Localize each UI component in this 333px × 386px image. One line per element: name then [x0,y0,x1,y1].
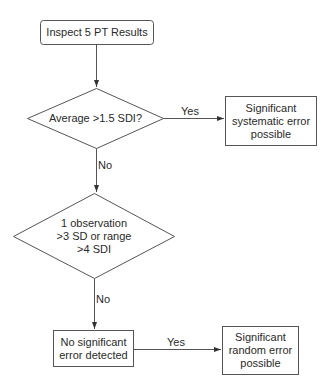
no-error-node-label: No significant error detected [53,330,134,367]
random-line-3: possible [240,357,280,370]
random-line-2: random error [229,344,293,357]
start-node-text: Inspect 5 PT Results [46,26,147,39]
decision1-no-label: No [98,159,112,172]
decision2-label: 1 observation >3 SD or range >4 SDI [13,193,175,279]
no-error-yes-label: Yes [167,336,185,349]
systematic-line-3: possible [251,128,291,141]
no-error-line-2: error detected [59,349,127,362]
decision1-yes-label: Yes [181,105,199,118]
decision1-label: Average >1.5 SDI? [27,88,164,149]
no-error-line-1: No significant [60,336,126,349]
decision2-line-2: >3 SD or range [57,230,132,243]
random-line-1: Significant [235,331,286,344]
systematic-line-2: systematic error [232,115,310,128]
systematic-line-1: Significant [246,102,297,115]
systematic-node-label: Significant systematic error possible [225,96,317,146]
decision1-text: Average >1.5 SDI? [49,112,142,125]
random-node-label: Significant random error possible [222,326,299,375]
decision2-line-3: >4 SDI [77,243,111,256]
decision2-line-1: 1 observation [61,217,127,230]
start-node-label: Inspect 5 PT Results [40,20,154,45]
decision2-no-label: No [96,293,110,306]
